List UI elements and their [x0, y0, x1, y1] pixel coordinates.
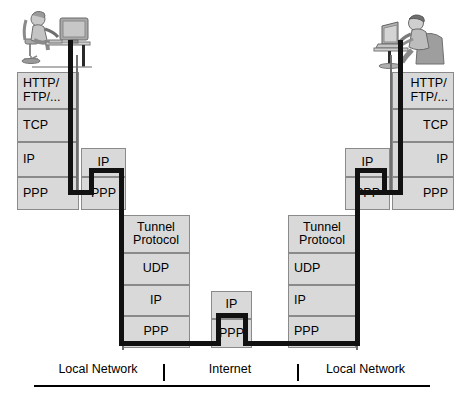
diagram-canvas: HTTP/ FTP/... TCP IP PPP IP PPP Tunnel P… — [0, 0, 462, 405]
layer-right-tunnel-protocol: Tunnel Protocol — [288, 215, 356, 253]
pipe-left-host-vertical — [68, 40, 73, 195]
layer-right-tunnel-transport: UDP — [288, 253, 356, 285]
region-label-local-network-right: Local Network — [301, 362, 430, 376]
layer-left-tunnel-network: IP — [122, 285, 190, 316]
layer-label: IP — [23, 153, 35, 167]
layer-label: PPP — [143, 325, 168, 339]
pipe-internet-to-right-tunnel — [243, 341, 360, 346]
thin-connector-left-host — [76, 55, 78, 195]
layer-label: PPP — [423, 187, 448, 201]
layer-label: PPP — [219, 327, 244, 341]
layer-label: TCP — [23, 119, 48, 133]
layer-label: UDP — [143, 262, 169, 276]
layer-right-tunnel-network: IP — [288, 285, 356, 316]
right-user-laptop-icon — [372, 6, 452, 74]
region-label-internet: Internet — [167, 362, 293, 376]
region-baseline — [34, 385, 430, 387]
layer-label: PPP — [91, 187, 116, 201]
layer-label: IP — [226, 298, 238, 312]
layer-left-tunnel-transport: UDP — [122, 253, 190, 285]
layer-label: UDP — [294, 262, 320, 276]
region-divider-left — [163, 364, 165, 381]
layer-label: HTTP/ FTP/... — [411, 77, 449, 104]
region-label-local-network-left: Local Network — [34, 362, 162, 376]
pipe-left-router-to-tunnel — [119, 168, 124, 346]
layer-label: TCP — [423, 119, 448, 133]
layer-label: IP — [294, 294, 306, 308]
left-user-workstation-icon — [16, 6, 96, 74]
layer-left-tunnel-protocol: Tunnel Protocol — [122, 215, 190, 253]
region-divider-right — [297, 364, 299, 381]
layer-label: Tunnel Protocol — [133, 221, 179, 248]
layer-label: Tunnel Protocol — [299, 221, 345, 248]
layer-label: PPP — [23, 187, 48, 201]
pipe-right-host-vertical — [398, 40, 403, 195]
layer-label: IP — [150, 294, 162, 308]
layer-label: PPP — [294, 325, 319, 339]
layer-label: IP — [436, 153, 448, 167]
pipe-right-router-to-host — [355, 190, 403, 195]
layer-label: HTTP/ FTP/... — [23, 77, 61, 104]
thin-connector-right-host — [390, 55, 392, 195]
pipe-left-tunnel-to-internet — [119, 341, 219, 346]
